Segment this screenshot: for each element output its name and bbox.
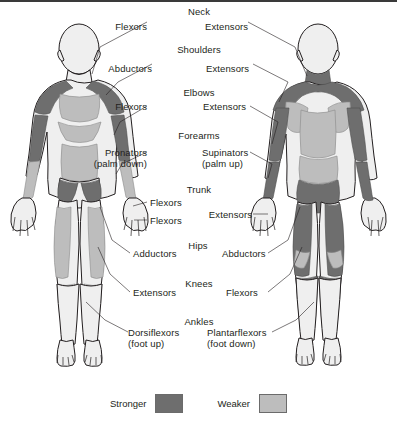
label-ankles-plantarflexors-sub: (foot down) <box>207 338 266 349</box>
label-ankles-plantarflexors-text: Plantarflexors <box>207 327 266 338</box>
label-forearms-supinators: Supinators (palm up) <box>202 147 248 169</box>
label-forearms-pronators: Pronators (palm down) <box>77 147 147 169</box>
label-trunk-extensors: Extensors <box>196 209 252 220</box>
label-elbows-extensors: Extensors <box>203 101 246 112</box>
legend-label-stronger: Stronger <box>110 398 146 409</box>
label-forearms-pronators-sub: (palm down) <box>77 158 147 169</box>
label-ankles-plantarflexors: Plantarflexors (foot down) <box>207 327 266 349</box>
label-neck-extensors: Extensors <box>205 21 248 32</box>
muscle-strength-diagram: .sk { fill:#efefef; stroke:#231f20; stro… <box>0 0 397 423</box>
label-forearms-pronators-text: Pronators <box>105 147 147 158</box>
label-knees-group: Knees <box>175 278 223 289</box>
label-knees-flexors: Flexors <box>226 287 258 298</box>
label-hips-abductors: Abductors <box>222 248 266 259</box>
label-ankles-group: Ankles <box>174 316 224 327</box>
label-forearms-supinators-text: Supinators <box>202 147 248 158</box>
legend-item-weaker: Weaker <box>217 394 287 413</box>
label-trunk-flexors-lower: Flexors <box>150 215 182 226</box>
posterior-figure <box>251 24 383 365</box>
label-neck-flexors: Flexors <box>87 21 147 32</box>
legend-item-stronger: Stronger <box>110 394 183 413</box>
label-forearms-supinators-sub: (palm up) <box>202 158 248 169</box>
label-knees-extensors: Extensors <box>133 287 176 298</box>
label-neck-group: Neck <box>174 6 224 17</box>
label-hips-adductors: Adductors <box>133 248 177 259</box>
label-forearms-group: Forearms <box>166 130 232 141</box>
label-trunk-group: Trunk <box>175 184 223 195</box>
label-elbows-group: Elbows <box>172 87 226 98</box>
label-trunk-flexors-upper: Flexors <box>150 197 182 208</box>
legend-label-weaker: Weaker <box>217 398 250 409</box>
label-shoulders-abductors: Abductors <box>82 63 152 74</box>
label-shoulders-group: Shoulders <box>166 44 232 55</box>
label-ankles-dorsiflexors-sub: (foot up) <box>128 338 179 349</box>
label-ankles-dorsiflexors: Dorsiflexors (foot up) <box>128 327 179 349</box>
legend-swatch-stronger <box>155 394 183 413</box>
label-shoulders-extensors: Extensors <box>206 63 249 74</box>
label-ankles-dorsiflexors-text: Dorsiflexors <box>128 327 179 338</box>
label-elbows-flexors: Flexors <box>87 101 147 112</box>
legend: Stronger Weaker <box>0 388 397 418</box>
label-hips-group: Hips <box>177 240 219 251</box>
legend-swatch-weaker <box>259 394 287 413</box>
